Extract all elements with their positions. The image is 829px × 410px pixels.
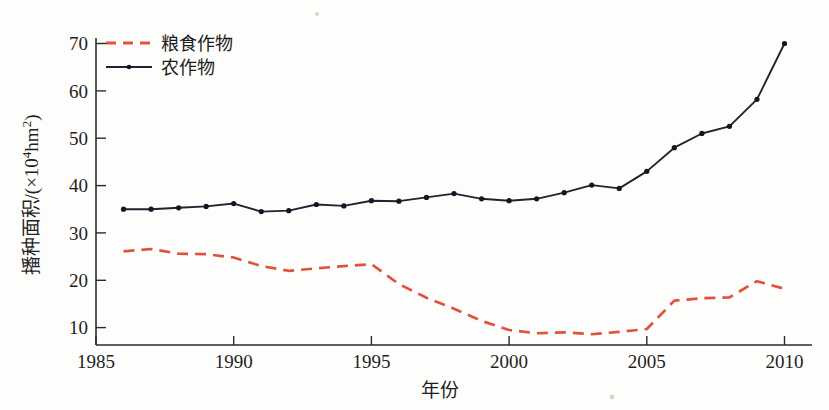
y-axis-title-close: ): [21, 115, 43, 121]
y-axis-title: 播种面积/(×104hm2): [19, 115, 43, 276]
x-tick-label-1995: 1995: [352, 351, 390, 372]
data-point-marker: [396, 199, 401, 204]
chart-background: [0, 0, 829, 410]
data-point-marker: [699, 131, 704, 136]
data-point-marker: [754, 97, 759, 102]
data-point-marker: [231, 201, 236, 206]
legend-label-grain-crops: 粮食作物: [161, 34, 233, 54]
y-axis-title-group: 播种面积/(×104hm2): [19, 115, 43, 276]
data-point-marker: [176, 205, 181, 210]
data-point-marker: [259, 209, 264, 214]
data-point-marker: [644, 169, 649, 174]
y-tick-label-10: 10: [69, 317, 88, 338]
data-point-marker: [204, 204, 209, 209]
data-point-marker: [562, 190, 567, 195]
data-point-marker: [424, 195, 429, 200]
data-point-marker: [341, 203, 346, 208]
data-point-marker: [479, 196, 484, 201]
y-tick-label-20: 20: [69, 270, 88, 291]
y-axis-title-tail: hm: [21, 127, 42, 152]
data-point-marker: [286, 208, 291, 213]
y-tick-label-50: 50: [69, 128, 88, 149]
data-point-marker: [121, 207, 126, 212]
data-point-marker: [589, 182, 594, 187]
data-point-marker: [507, 198, 512, 203]
y-axis-title-main: 播种面积/(×10: [21, 158, 43, 275]
legend-label-all-crops: 农作物: [161, 58, 215, 78]
legend-swatch-marker-all-crops: [127, 65, 132, 70]
data-point-marker: [369, 198, 374, 203]
y-tick-label-70: 70: [69, 33, 88, 54]
paper-speck: [315, 12, 319, 16]
x-tick-label-1990: 1990: [215, 351, 253, 372]
y-tick-label-40: 40: [69, 175, 88, 196]
data-point-marker: [534, 196, 539, 201]
data-point-marker: [451, 191, 456, 196]
x-tick-label-2010: 2010: [766, 351, 804, 372]
data-point-marker: [314, 202, 319, 207]
data-point-marker: [672, 145, 677, 150]
data-point-marker: [782, 41, 787, 46]
data-point-marker: [148, 207, 153, 212]
x-axis-title: 年份: [421, 380, 459, 401]
line-chart-svg: 70 60 50 40 30 20 10 1985 1990 1995 2000…: [0, 0, 829, 410]
chart-figure: 70 60 50 40 30 20 10 1985 1990 1995 2000…: [0, 0, 829, 410]
x-tick-label-1985: 1985: [77, 351, 115, 372]
y-tick-label-30: 30: [69, 223, 88, 244]
data-point-marker: [727, 124, 732, 129]
data-point-marker: [617, 186, 622, 191]
paper-speck: [610, 395, 615, 400]
x-tick-label-2000: 2000: [490, 351, 528, 372]
y-tick-label-60: 60: [69, 81, 88, 102]
x-tick-label-2005: 2005: [628, 351, 666, 372]
